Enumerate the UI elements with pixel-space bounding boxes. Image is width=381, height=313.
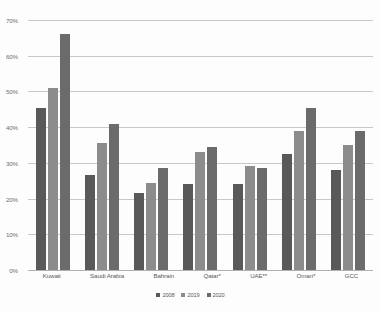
bar	[306, 108, 316, 271]
bar	[355, 131, 365, 270]
bar	[282, 154, 292, 270]
bar	[97, 143, 107, 270]
bar	[233, 184, 243, 270]
bar	[134, 193, 144, 270]
bar-group	[233, 20, 267, 270]
y-axis-tick-label: 10%	[0, 231, 18, 238]
bar-group	[85, 20, 119, 270]
bar	[245, 166, 255, 270]
bar	[48, 88, 58, 270]
category-label: Oman*	[297, 272, 316, 279]
legend-swatch-icon	[181, 293, 185, 297]
bar-group	[36, 20, 70, 270]
legend-item[interactable]: 2020	[207, 292, 225, 298]
legend-item[interactable]: 2008	[156, 292, 174, 298]
bar	[146, 183, 156, 271]
legend-swatch-icon	[207, 293, 211, 297]
bar-group	[183, 20, 217, 270]
legend-swatch-icon	[156, 293, 160, 297]
chart-legend: 200820192020	[0, 292, 381, 298]
bar-chart: 0%10%20%30%40%50%60%70% KuwaitSaudi Arab…	[0, 0, 381, 313]
category-label: Bahrain	[153, 272, 174, 279]
legend-label: 2020	[213, 292, 225, 298]
bar	[294, 131, 304, 270]
bar-group	[134, 20, 168, 270]
bar	[343, 145, 353, 270]
bar-groups	[28, 20, 373, 270]
y-axis-tick-label: 60%	[0, 52, 18, 59]
y-axis-tick-label: 50%	[0, 88, 18, 95]
legend-item[interactable]: 2019	[181, 292, 199, 298]
y-axis-tick-label: 30%	[0, 159, 18, 166]
y-axis-tick-label: 70%	[0, 17, 18, 24]
category-label: UAE**	[250, 272, 267, 279]
category-label: GCC	[345, 272, 358, 279]
bar	[85, 175, 95, 270]
bar	[207, 147, 217, 270]
bar-group	[282, 20, 316, 270]
bar	[36, 108, 46, 271]
y-axis-tick-label: 40%	[0, 124, 18, 131]
legend-label: 2019	[187, 292, 199, 298]
bar	[60, 34, 70, 270]
bar	[195, 152, 205, 270]
plot-area	[28, 20, 373, 270]
legend-label: 2008	[162, 292, 174, 298]
bar	[257, 168, 267, 270]
x-axis-category-labels: KuwaitSaudi ArabiaBahrainQatar*UAE**Oman…	[28, 272, 373, 279]
category-label: Qatar*	[203, 272, 220, 279]
bar-group	[331, 20, 365, 270]
category-label: Kuwait	[43, 272, 61, 279]
y-axis-tick-label: 0%	[0, 267, 18, 274]
gridline	[28, 270, 373, 271]
bar	[158, 168, 168, 270]
bar	[331, 170, 341, 270]
category-label: Saudi Arabia	[90, 272, 124, 279]
y-axis-tick-label: 20%	[0, 195, 18, 202]
bar	[183, 184, 193, 270]
bar	[109, 124, 119, 270]
